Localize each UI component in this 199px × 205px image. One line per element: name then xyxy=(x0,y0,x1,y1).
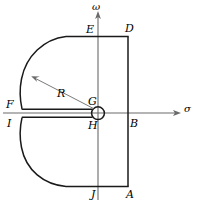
point-label-G: G xyxy=(88,96,97,107)
point-label-I: I xyxy=(7,118,11,129)
point-label-E: E xyxy=(86,24,94,35)
sigma-axis-label: σ xyxy=(184,104,191,114)
point-label-J: J xyxy=(91,189,95,200)
omega-axis-label: ω xyxy=(92,2,100,12)
contour-diagram-canvas xyxy=(0,0,199,205)
contour-diagram-figure: ω σ E D F I G H B J A R xyxy=(0,0,199,205)
radius-label: R xyxy=(57,88,65,99)
contour-outer-arc-lower xyxy=(20,118,66,187)
point-label-A: A xyxy=(126,189,134,200)
radius-arrowhead xyxy=(31,76,40,82)
point-label-B: B xyxy=(130,118,138,129)
contour-path-group xyxy=(20,37,128,187)
point-label-D: D xyxy=(125,23,134,34)
point-label-H: H xyxy=(88,120,98,131)
point-label-F: F xyxy=(6,99,14,110)
